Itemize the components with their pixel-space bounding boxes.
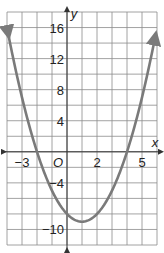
origin-label: O xyxy=(53,155,63,170)
x-tick-label: −3 xyxy=(15,155,30,170)
x-tick-label: 5 xyxy=(138,155,145,170)
y-tick-label: 4 xyxy=(57,114,64,129)
y-tick-label: 12 xyxy=(50,52,64,67)
y-axis-label: y xyxy=(70,6,79,21)
parabola-graph: 161284−4−10−325Oxy xyxy=(0,0,164,253)
y-tick-label: −4 xyxy=(49,176,64,191)
y-tick-label: −10 xyxy=(42,222,64,237)
y-tick-label: 8 xyxy=(57,83,64,98)
y-tick-label: 16 xyxy=(50,21,64,36)
x-axis-label: x xyxy=(151,135,159,150)
x-tick-label: 2 xyxy=(93,155,100,170)
